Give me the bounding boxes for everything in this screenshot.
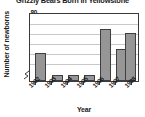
chart-title: Grizzly Bears Born in Yellowstone: [0, 0, 145, 5]
x-axis-title: Year: [29, 106, 139, 113]
y-axis-title: Number of newborns: [3, 12, 10, 78]
bar-chart: Grizzly Bears Born in Yellowstone Number…: [0, 0, 145, 117]
